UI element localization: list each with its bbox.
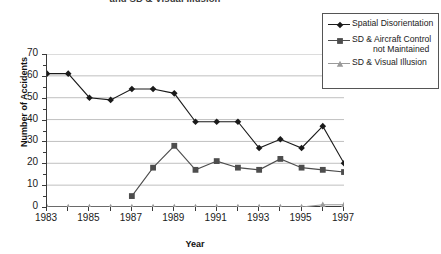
- data-point-marker: [337, 61, 343, 67]
- diamond-marker-icon: [326, 18, 352, 31]
- square-marker-icon: [326, 34, 352, 47]
- chart-title: and SD & Visual Illusion: [0, 0, 330, 4]
- x-tick-mark: [131, 207, 132, 211]
- data-point-marker: [235, 165, 241, 171]
- data-point-marker: [256, 167, 262, 173]
- y-tick-label: 60: [4, 69, 38, 80]
- data-point-marker: [277, 136, 284, 143]
- x-tick-mark: [301, 207, 302, 211]
- x-tick-label: 1985: [68, 212, 108, 223]
- x-tick-mark: [173, 207, 174, 211]
- chart-legend: Spatial DisorientationSD & Aircraft Cont…: [322, 13, 439, 89]
- data-point-marker: [150, 165, 156, 171]
- triangle-marker-icon: [326, 57, 352, 70]
- x-tick-mark: [322, 207, 323, 211]
- x-tick-mark: [110, 207, 111, 211]
- x-tick-label: 1983: [26, 212, 66, 223]
- y-tick-label: 50: [4, 91, 38, 102]
- x-tick-mark: [195, 207, 196, 211]
- x-tick-label: 1997: [323, 212, 363, 223]
- legend-label-line2: not Maintained: [352, 44, 431, 54]
- x-tick-mark: [46, 207, 47, 211]
- legend-label: Spatial Disorientation: [352, 18, 433, 28]
- x-axis-title: Year: [45, 239, 345, 249]
- y-tick-label: 30: [4, 134, 38, 145]
- data-point-marker: [47, 70, 50, 77]
- x-tick-mark: [67, 207, 68, 211]
- x-tick-label: 1991: [196, 212, 236, 223]
- series-triangle: [47, 202, 344, 207]
- data-point-marker: [193, 167, 199, 173]
- legend-label: SD & Visual Illusion: [352, 57, 427, 67]
- data-point-marker: [129, 193, 135, 199]
- x-tick-mark: [216, 207, 217, 211]
- data-point-marker: [341, 169, 344, 175]
- data-point-marker: [299, 165, 305, 171]
- data-point-marker: [337, 38, 343, 44]
- legend-label: SD & Aircraft Controlnot Maintained: [352, 34, 431, 54]
- x-tick-mark: [152, 207, 153, 211]
- x-tick-mark: [237, 207, 238, 211]
- data-series-layer: [47, 54, 344, 207]
- plot-area: [46, 54, 343, 207]
- x-tick-mark: [258, 207, 259, 211]
- x-tick-mark: [279, 207, 280, 211]
- x-tick-label: 1989: [153, 212, 193, 223]
- y-tick-label: 20: [4, 156, 38, 167]
- x-tick-mark: [343, 207, 344, 211]
- data-point-marker: [213, 118, 220, 125]
- data-point-marker: [337, 22, 344, 29]
- x-tick-label: 1995: [281, 212, 321, 223]
- x-tick-mark: [88, 207, 89, 211]
- legend-item-2: SD & Aircraft Controlnot Maintained: [323, 34, 438, 54]
- data-point-marker: [214, 158, 220, 164]
- series-diamond: [47, 70, 344, 166]
- series-square: [129, 143, 344, 199]
- data-point-marker: [320, 167, 326, 173]
- x-tick-label: 1993: [238, 212, 278, 223]
- y-tick-label: 0: [4, 200, 38, 211]
- x-tick-label: 1987: [111, 212, 151, 223]
- chart-figure: and SD & Visual Illusion Number of Accid…: [0, 0, 441, 254]
- data-point-marker: [129, 86, 136, 93]
- data-point-marker: [171, 143, 177, 149]
- legend-item-1: Spatial Disorientation: [323, 18, 438, 31]
- legend-item-3: SD & Visual Illusion: [323, 57, 438, 70]
- series-line: [132, 146, 344, 196]
- y-tick-label: 70: [4, 47, 38, 58]
- data-point-marker: [277, 156, 283, 162]
- y-tick-label: 40: [4, 113, 38, 124]
- data-point-marker: [150, 86, 157, 93]
- y-tick-label: 10: [4, 178, 38, 189]
- data-point-marker: [107, 97, 114, 104]
